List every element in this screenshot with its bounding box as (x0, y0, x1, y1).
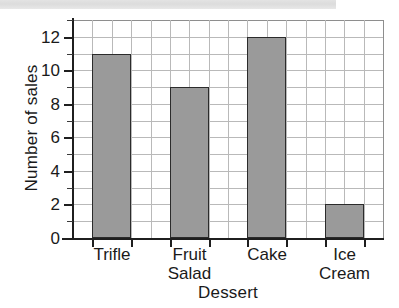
x-axis-title: Dessert (73, 283, 383, 303)
x-axis-spine (62, 238, 384, 240)
y-tick-label: 12 (12, 29, 60, 46)
y-axis-spine (72, 18, 74, 240)
y-minor-tick-mark (67, 154, 73, 155)
bar-chart-figure: Number of sales Dessert 024681012 Trifle… (0, 0, 399, 308)
bar (92, 54, 131, 238)
y-tick-label: 0 (12, 230, 60, 247)
y-minor-tick-mark (67, 54, 73, 55)
y-minor-tick-mark (67, 87, 73, 88)
y-minor-tick-mark (67, 121, 73, 122)
bar (325, 204, 364, 238)
x-tick-label: Fruit Salad (151, 245, 229, 283)
y-tick-label: 4 (12, 163, 60, 180)
y-tick-mark (64, 204, 73, 206)
x-tick-label: Trifle (73, 245, 151, 264)
y-tick-label: 8 (12, 96, 60, 113)
y-tick-mark (64, 238, 73, 240)
y-tick-label: 6 (12, 129, 60, 146)
plot-area (73, 20, 383, 238)
y-minor-tick-mark (67, 221, 73, 222)
x-tick-label: Cake (228, 245, 306, 264)
y-minor-tick-mark (67, 188, 73, 189)
y-tick-mark (64, 137, 73, 139)
bar-series (73, 20, 383, 238)
y-tick-mark (64, 171, 73, 173)
y-tick-mark (64, 70, 73, 72)
y-tick-mark (64, 37, 73, 39)
bar (247, 37, 286, 238)
bar (170, 87, 209, 238)
x-tick-label: Ice Cream (306, 245, 384, 283)
y-tick-label: 10 (12, 62, 60, 79)
y-tick-mark (64, 104, 73, 106)
gridline-vertical (383, 20, 384, 238)
y-tick-label: 2 (12, 196, 60, 213)
y-minor-tick-mark (67, 20, 73, 21)
